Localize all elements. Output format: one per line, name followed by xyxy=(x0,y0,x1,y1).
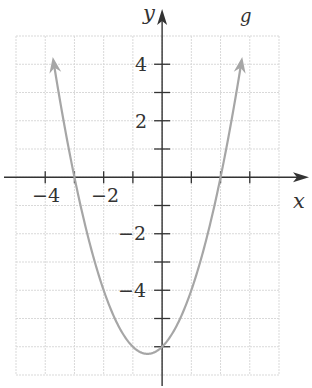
curve-arrowheads xyxy=(49,57,245,74)
y-tick-label-2: 2 xyxy=(135,110,147,132)
y-axis-label: y xyxy=(142,1,156,25)
curve-label-g: g xyxy=(240,5,252,26)
y-tick-label-neg2: −2 xyxy=(118,222,146,244)
y-tick-label-neg4: −4 xyxy=(118,279,146,301)
x-tick-label-neg2: −2 xyxy=(91,184,119,206)
y-tick-label-4: 4 xyxy=(135,53,147,75)
x-axis-label: x xyxy=(293,189,305,213)
x-tick-label-neg4: −4 xyxy=(32,184,60,206)
function-graph: y x g −4 −2 4 2 −2 −4 xyxy=(0,0,312,388)
curve-g xyxy=(53,61,241,354)
axis-ticks xyxy=(45,64,250,347)
